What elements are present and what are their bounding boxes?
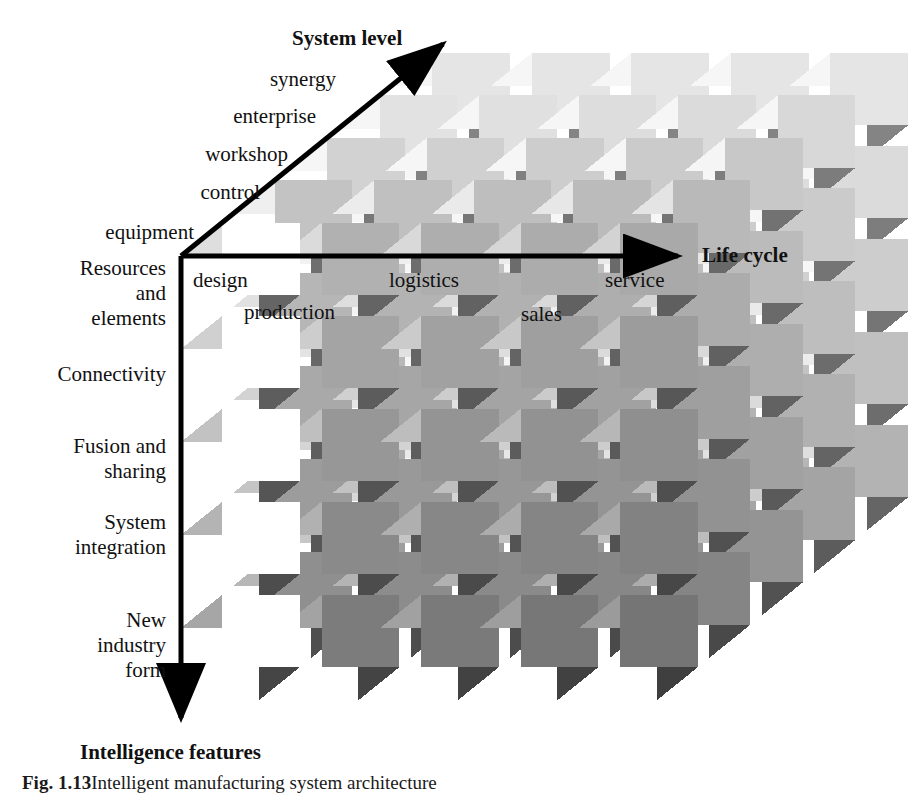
- figure-caption-label: Fig. 1.13: [22, 772, 91, 793]
- cube-front-face-2-3-0: [421, 502, 499, 575]
- tick-system-level-workshop: workshop: [166, 142, 288, 167]
- cube-front-face-1-3-0: [322, 502, 400, 575]
- axis-title-life-cycle: Life cycle: [702, 243, 788, 268]
- cube-front-face-1-0-0: [322, 223, 400, 296]
- tick-life-cycle-design: design: [193, 268, 248, 293]
- tick-intelligence-system-integration: System integration: [12, 510, 166, 560]
- cube-front-face-3-3-0: [521, 502, 599, 575]
- cube-front-face-3-4-0: [521, 595, 599, 668]
- cube-front-face-2-4-0: [421, 595, 499, 668]
- cube-front-face-1-2-0: [322, 409, 400, 482]
- cube-front-face-2-2-0: [421, 409, 499, 482]
- cube-front-face-1-4-0: [322, 595, 400, 668]
- tick-system-level-enterprise: enterprise: [196, 104, 316, 129]
- tick-system-level-control: control: [136, 180, 260, 205]
- tick-system-level-equipment: equipment: [60, 220, 194, 245]
- axis-title-system-level: System level: [292, 26, 402, 51]
- cube-front-face-4-4-0: [620, 595, 698, 668]
- tick-intelligence-fusion-and-sharing: Fusion and sharing: [14, 434, 166, 484]
- figure-caption-text: Intelligent manufacturing system archite…: [91, 772, 437, 793]
- tick-life-cycle-sales: sales: [521, 302, 562, 327]
- figure-3d-matrix-diagram: System level Life cycle Intelligence fea…: [0, 0, 910, 794]
- cube-front-face-blank-0-4-0: [222, 595, 300, 668]
- cube-front-face-4-1-0: [620, 316, 698, 389]
- tick-system-level-synergy: synergy: [226, 67, 336, 92]
- cube-front-face-2-1-0: [421, 316, 499, 389]
- tick-life-cycle-logistics: logistics: [389, 268, 459, 293]
- cube-front-face-blank-0-1-0: [222, 316, 300, 389]
- cube-front-face-4-2-0: [620, 409, 698, 482]
- cube-front-face-blank-0-2-0: [222, 409, 300, 482]
- cube-front-face-3-0-0: [521, 223, 599, 296]
- tick-intelligence-connectivity: Connectivity: [10, 362, 166, 387]
- cube-front-face-blank-0-3-0: [222, 502, 300, 575]
- tick-intelligence-new-industry-form: New industry form: [20, 608, 166, 683]
- cube-array: [181, 53, 908, 701]
- axis-title-intelligence-features: Intelligence features: [80, 740, 261, 765]
- tick-intelligence-resources-and-elements: Resources and elements: [18, 256, 166, 331]
- cube-front-face-3-2-0: [521, 409, 599, 482]
- tick-life-cycle-production: production: [244, 300, 335, 325]
- tick-life-cycle-service: service: [605, 268, 664, 293]
- figure-caption: Fig. 1.13Intelligent manufacturing syste…: [22, 772, 437, 794]
- cube-front-face-4-3-0: [620, 502, 698, 575]
- cube-front-face-1-1-0: [322, 316, 400, 389]
